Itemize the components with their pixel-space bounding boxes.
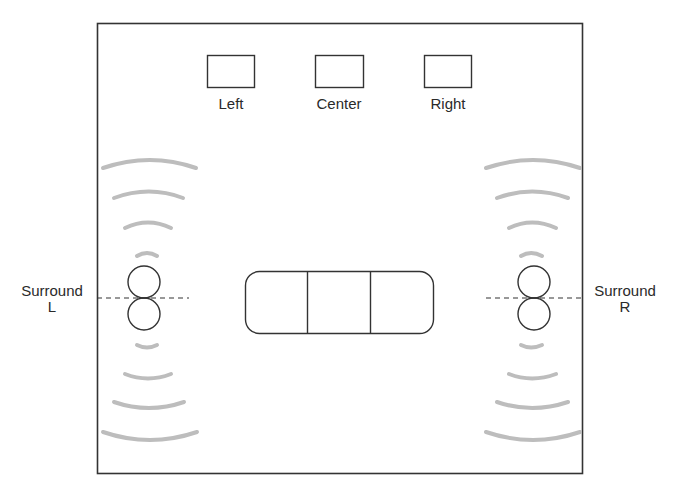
surround-right-upper-sound-waves — [486, 160, 580, 256]
surround-left-lower-sound-waves — [103, 345, 197, 440]
surround-right-lower-sound-waves — [486, 345, 580, 440]
surround-left-upper-sound-waves — [103, 160, 196, 256]
center-speaker — [316, 56, 364, 88]
surround-left-label-line2: L — [10, 299, 94, 315]
front-right-speaker — [425, 56, 472, 88]
couch — [246, 272, 434, 334]
front-left-speaker-label: Left — [203, 96, 259, 112]
front-left-speaker — [208, 56, 255, 88]
surround-left-label-line1: Surround — [10, 283, 94, 299]
surround-right-label-line2: R — [583, 299, 667, 315]
surround-left-label: Surround L — [10, 283, 94, 315]
surround-right-label: Surround R — [583, 283, 667, 315]
front-right-speaker-label: Right — [418, 96, 478, 112]
center-speaker-label: Center — [304, 96, 374, 112]
surround-right-label-line1: Surround — [583, 283, 667, 299]
surround-sound-diagram — [0, 0, 673, 487]
